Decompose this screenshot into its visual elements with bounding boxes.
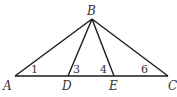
angle-label-1: 1 <box>31 63 38 76</box>
angle-label-6: 6 <box>141 63 148 76</box>
triangle-diagram: B A D E C 1 3 4 6 <box>0 0 177 97</box>
point-label-a: A <box>2 79 12 93</box>
point-label-d: D <box>61 79 72 93</box>
angle-label-3: 3 <box>73 63 80 76</box>
point-label-c: C <box>168 79 177 93</box>
point-label-e: E <box>108 79 118 93</box>
angle-label-4: 4 <box>100 63 107 76</box>
point-label-b: B <box>86 4 96 18</box>
